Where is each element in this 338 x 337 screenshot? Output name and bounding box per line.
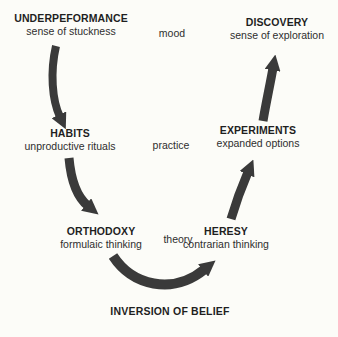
node-habits-title: HABITS (24, 127, 115, 140)
inversion-of-belief-label: INVERSION OF BELIEF (110, 305, 229, 317)
node-heresy-subtitle: contrarian thinking (183, 238, 269, 251)
node-heresy-title: HERESY (183, 225, 269, 238)
node-underperformance-subtitle: sense of stuckness (14, 25, 128, 38)
node-experiments-title: EXPERIMENTS (217, 124, 300, 137)
node-heresy: HERESY contrarian thinking (183, 225, 269, 251)
node-experiments: EXPERIMENTS expanded options (217, 124, 300, 150)
node-habits-subtitle: unproductive rituals (24, 140, 115, 153)
node-habits: HABITS unproductive rituals (24, 127, 115, 153)
arrow-orthodoxy-to-heresy (113, 256, 205, 284)
node-underperformance: UNDERPEFORMANCE sense of stuckness (14, 12, 128, 38)
belief-inversion-diagram: UNDERPEFORMANCE sense of stuckness DISCO… (0, 0, 338, 337)
arrow-heresy-to-experiments (231, 172, 248, 219)
arrow-layer (0, 0, 338, 337)
axis-label-mood: mood (159, 27, 185, 39)
node-experiments-subtitle: expanded options (217, 137, 300, 150)
node-underperformance-title: UNDERPEFORMANCE (14, 12, 128, 25)
node-discovery-subtitle: sense of exploration (230, 29, 324, 42)
arrow-habits-to-orthodoxy (69, 158, 88, 206)
node-discovery-title: DISCOVERY (230, 16, 324, 29)
node-orthodoxy-subtitle: formulaic thinking (60, 238, 142, 251)
node-orthodoxy: ORTHODOXY formulaic thinking (60, 225, 142, 251)
node-orthodoxy-title: ORTHODOXY (60, 225, 142, 238)
node-discovery: DISCOVERY sense of exploration (230, 16, 324, 42)
arrow-experiments-to-discovery (263, 68, 273, 121)
arrow-underperformance-to-habits (53, 46, 60, 117)
axis-label-practice: practice (153, 139, 190, 151)
